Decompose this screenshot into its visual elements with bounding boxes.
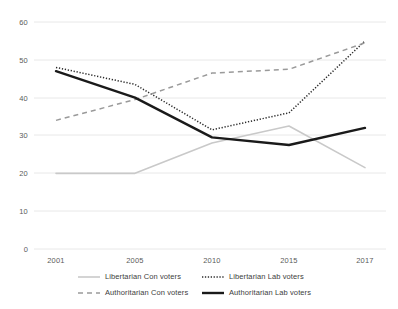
series-line-1 [56,41,365,130]
y-tick-0: 0 [2,245,28,254]
legend-item-libertarian-lab[interactable]: Libertarian Lab voters [202,272,378,281]
legend-swatch-libertarian-con [78,273,100,281]
data-series-layer [56,41,365,173]
y-tick-50: 50 [2,56,28,65]
legend-swatch-authoritarian-con [78,289,100,297]
legend-label-libertarian-con: Libertarian Con voters [105,272,181,281]
x-tick-2015: 2015 [269,256,309,265]
legend-swatch-libertarian-lab [202,273,224,281]
y-tick-60: 60 [2,18,28,27]
y-tick-30: 30 [2,131,28,140]
series-line-0 [56,126,365,173]
legend-label-libertarian-lab: Libertarian Lab voters [229,272,304,281]
chart-legend: Libertarian Con voters Libertarian Lab v… [78,272,378,297]
series-line-2 [56,43,365,121]
x-tick-2017: 2017 [345,256,385,265]
x-tick-2005: 2005 [115,256,155,265]
x-tick-2001: 2001 [36,256,76,265]
legend-label-authoritarian-con: Authoritarian Con voters [105,288,188,297]
legend-swatch-authoritarian-lab [202,289,224,297]
y-tick-10: 10 [2,207,28,216]
line-chart: 60 50 40 30 20 10 0 2001 2005 2010 2015 … [0,0,398,309]
legend-item-authoritarian-lab[interactable]: Authoritarian Lab voters [202,288,378,297]
legend-label-authoritarian-lab: Authoritarian Lab voters [229,288,311,297]
legend-item-libertarian-con[interactable]: Libertarian Con voters [78,272,196,281]
y-tick-20: 20 [2,169,28,178]
legend-item-authoritarian-con[interactable]: Authoritarian Con voters [78,288,196,297]
x-tick-2010: 2010 [192,256,232,265]
y-tick-40: 40 [2,94,28,103]
